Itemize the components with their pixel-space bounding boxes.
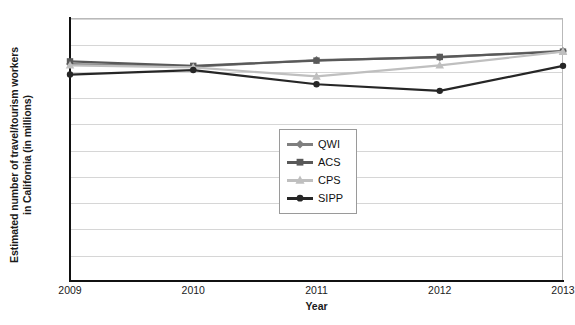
legend-item-acs[interactable]: ACS	[287, 153, 349, 171]
legend-marker-diamond-icon	[287, 138, 313, 150]
legend-marker-square-icon	[287, 156, 313, 168]
data-point	[313, 57, 319, 63]
data-point	[313, 81, 319, 87]
legend-item-qwi[interactable]: QWI	[287, 135, 349, 153]
data-point	[190, 67, 196, 73]
legend-marker-triangle-icon	[287, 174, 313, 186]
chart-figure: Estimated number of travel/tourism worke…	[0, 0, 575, 325]
legend-label: ACS	[318, 156, 341, 168]
x-axis-title: Year	[70, 300, 563, 312]
legend-label: CPS	[318, 174, 341, 186]
legend-marker-circle-icon	[287, 192, 313, 204]
data-point	[560, 63, 566, 69]
data-point	[67, 71, 73, 77]
legend-label: SIPP	[318, 192, 343, 204]
legend-item-sipp[interactable]: SIPP	[287, 189, 349, 207]
data-point	[437, 88, 443, 94]
legend: QWIACSCPSSIPP	[279, 129, 357, 214]
data-point	[437, 54, 443, 60]
legend-item-cps[interactable]: CPS	[287, 171, 349, 189]
legend-label: QWI	[318, 138, 340, 150]
